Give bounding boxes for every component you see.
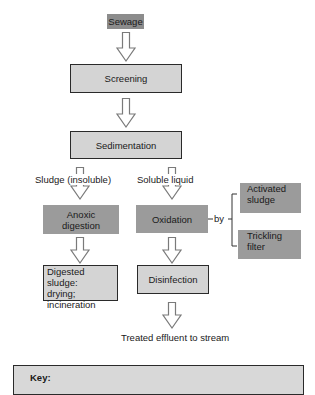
sludge-branch-label: Sludge (insoluble) [34, 174, 112, 185]
screening-label: Screening [105, 73, 148, 84]
sedimentation-label: Sedimentation [96, 140, 157, 151]
by-label: by [214, 213, 224, 224]
oxidation-label: Oxidation [152, 214, 192, 225]
digested-sludge-label-line3: incineration [47, 299, 96, 310]
liquid-branch-label: Soluble liquid [136, 174, 195, 185]
disinfection-box: Disinfection [137, 265, 209, 294]
sedimentation-box: Sedimentation [70, 131, 182, 159]
trickling-filter-label-line1: Trickling [247, 230, 282, 241]
trickling-filter-box: Trickling filter [238, 230, 301, 259]
trickling-filter-label-line2: filter [247, 241, 265, 252]
key-legend-box: Key: [13, 365, 304, 395]
key-title: Key: [30, 372, 51, 383]
anoxic-digestion-box: Anoxic digestion [43, 205, 119, 234]
activated-sludge-box: Activated sludge [240, 183, 301, 213]
digested-sludge-label-line1: Digested sludge: [47, 266, 117, 288]
down-arrow-icon [116, 32, 136, 62]
digested-sludge-label-line2: drying; [47, 288, 76, 299]
activated-sludge-label-line2: sludge [247, 194, 275, 205]
oxidation-box: Oxidation [136, 205, 208, 233]
down-arrow-icon [162, 237, 182, 264]
sewage-label: Sewage [108, 16, 142, 27]
activated-sludge-label-line1: Activated [247, 183, 286, 194]
screening-box: Screening [70, 64, 182, 93]
disinfection-label: Disinfection [148, 274, 197, 285]
down-arrow-icon [162, 302, 182, 329]
anoxic-digestion-label-line2: digestion [62, 220, 100, 231]
down-arrow-icon [70, 237, 90, 264]
treated-effluent-label: Treated effluent to stream [121, 332, 229, 343]
anoxic-digestion-label-line1: Anoxic [67, 209, 96, 220]
sewage-source-box: Sewage [107, 14, 144, 29]
digested-sludge-box: Digested sludge: drying; incineration [43, 265, 118, 301]
down-arrow-icon [116, 98, 136, 128]
